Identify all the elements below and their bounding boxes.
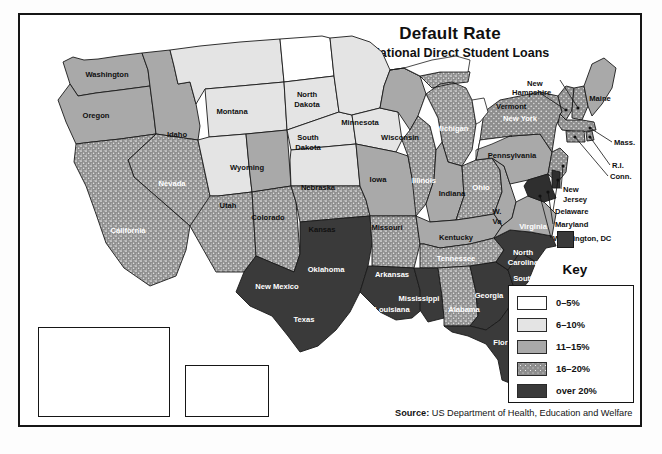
label-ohio: Ohio xyxy=(472,183,490,192)
label-ri: R.I. xyxy=(612,161,624,170)
label-north-dakota-1: North xyxy=(297,90,318,99)
label-oregon: Oregon xyxy=(82,111,109,120)
label-virginia: Virginia xyxy=(519,222,547,231)
legend-title: Key xyxy=(520,262,630,277)
label-tennessee: Tennessee xyxy=(437,254,476,263)
legend-swatch-1 xyxy=(517,318,547,332)
label-south-dakota-1: South xyxy=(297,133,319,142)
label-kentucky: Kentucky xyxy=(439,233,474,242)
map-page: Default Rate for National Direct Student… xyxy=(0,0,662,454)
legend-label-1: 6–10% xyxy=(556,320,585,330)
label-louisiana: Louisiana xyxy=(374,305,410,314)
source-line: Source: US Department of Health, Educati… xyxy=(395,408,632,418)
washington-dc-swatch[interactable] xyxy=(557,231,574,248)
label-wisconsin: Wisconsin xyxy=(381,133,419,142)
label-west-virginia-2: Va xyxy=(493,217,503,226)
label-new-jersey-2: Jersey xyxy=(563,195,588,204)
legend-swatch-4 xyxy=(517,384,547,398)
label-mississippi: Mississippi xyxy=(399,294,440,303)
source-label: Source: xyxy=(395,408,429,418)
label-oklahoma: Oklahoma xyxy=(308,265,345,274)
label-north-carolina-1: North xyxy=(513,248,534,257)
label-alabama: Alabama xyxy=(448,305,480,314)
label-delaware: Delaware xyxy=(555,207,588,216)
legend-label-0: 0–5% xyxy=(556,298,580,308)
label-utah: Utah xyxy=(220,201,237,210)
legend-swatch-0 xyxy=(517,296,547,310)
hawaii-inset-frame xyxy=(185,365,269,417)
label-new-hampshire-2: Hampshire xyxy=(512,88,551,97)
legend-row-0[interactable]: 0–5% xyxy=(517,292,633,313)
legend-row-2[interactable]: 11–15% xyxy=(517,336,633,357)
label-iowa: Iowa xyxy=(370,175,388,184)
legend-swatch-2 xyxy=(517,340,547,354)
label-washington: Washington xyxy=(85,70,129,79)
legend-swatch-3 xyxy=(517,362,547,376)
label-wyoming: Wyoming xyxy=(230,163,264,172)
label-conn: Conn. xyxy=(610,172,632,181)
label-north-dakota-2: Dakota xyxy=(294,100,320,109)
state-colorado[interactable] xyxy=(246,130,291,192)
legend-label-4: over 20% xyxy=(556,386,597,396)
state-north-dakota[interactable] xyxy=(280,36,334,82)
state-maine[interactable] xyxy=(584,58,616,116)
label-texas: Texas xyxy=(294,315,315,324)
label-montana: Montana xyxy=(216,107,248,116)
label-idaho: Idaho xyxy=(167,130,188,139)
label-arizona: Arizona xyxy=(204,277,233,286)
label-new-york: New York xyxy=(503,114,538,123)
label-minnesota: Minnesota xyxy=(341,118,379,127)
alaska-inset-frame xyxy=(38,327,170,417)
legend-row-1[interactable]: 6–10% xyxy=(517,314,633,335)
label-south-dakota-2: Dakota xyxy=(295,143,321,152)
label-kansas: Kansas xyxy=(308,225,335,234)
legend-label-2: 11–15% xyxy=(556,342,590,352)
label-new-hampshire-1: New xyxy=(527,79,543,88)
label-maine: Maine xyxy=(589,94,611,103)
label-nevada: Nevada xyxy=(158,179,186,188)
label-illinois: Illinois xyxy=(412,176,436,185)
legend-row-3[interactable]: 16–20% xyxy=(517,358,633,379)
label-california: California xyxy=(110,226,146,235)
label-michigan: Michigan xyxy=(436,124,469,133)
label-west-virginia-1: W. xyxy=(493,207,502,216)
label-maryland: Maryland xyxy=(555,220,589,229)
label-missouri: Missouri xyxy=(371,223,402,232)
label-vermont: Vermont xyxy=(496,102,527,111)
label-colorado: Colorado xyxy=(251,213,285,222)
legend-row-4[interactable]: over 20% xyxy=(517,380,633,401)
label-indiana: Indiana xyxy=(439,189,466,198)
legend-box: 0–5% 6–10% 11–15% 16–20% over 20% xyxy=(508,285,634,403)
label-georgia: Georgia xyxy=(475,291,504,300)
label-mass: Mass. xyxy=(614,138,635,147)
label-nebraska: Nebraska xyxy=(301,183,336,192)
label-new-mexico: New Mexico xyxy=(255,282,299,291)
label-pennsylvania: Pennsylvania xyxy=(488,151,537,160)
label-arkansas: Arkansas xyxy=(375,270,409,279)
legend-label-3: 16–20% xyxy=(556,364,590,374)
label-new-jersey-1: New xyxy=(563,185,579,194)
source-text: US Department of Health, Education and W… xyxy=(429,408,632,418)
